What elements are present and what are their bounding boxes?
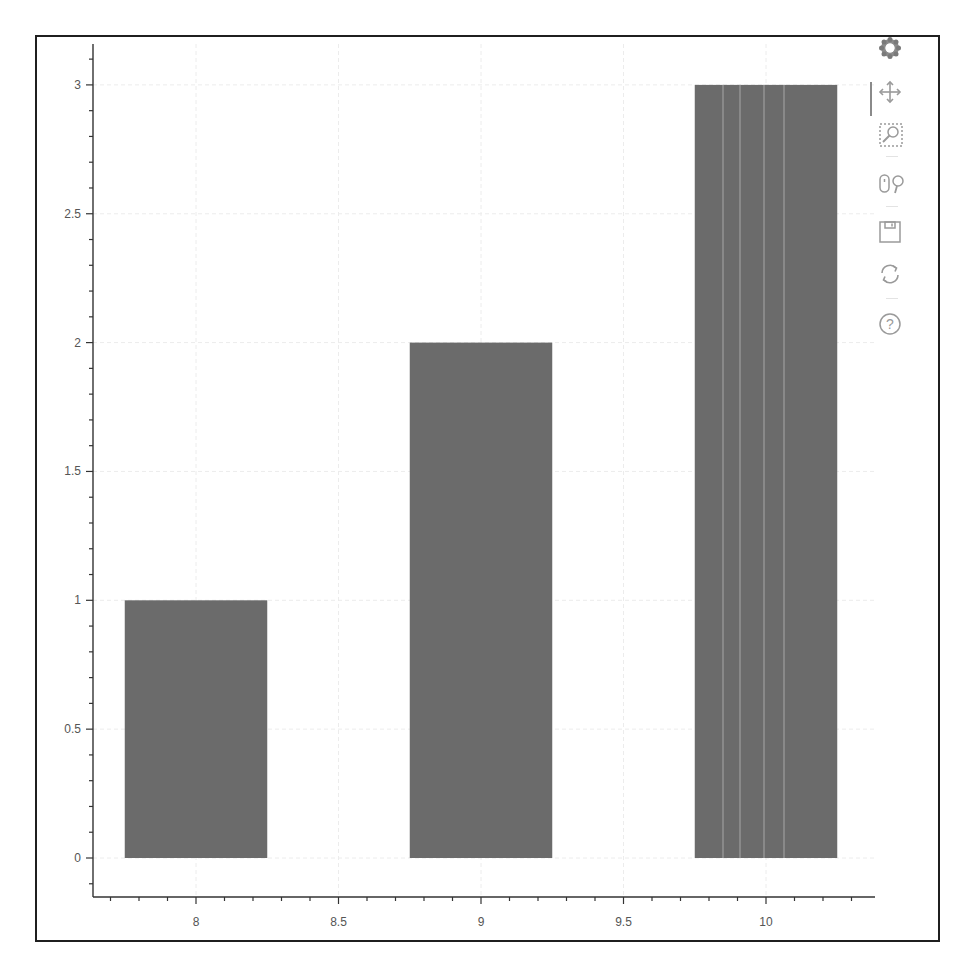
x-tick-label: 8 (193, 915, 200, 929)
y-tick-label: 3 (74, 78, 81, 92)
toolbar-separator (886, 206, 898, 207)
toolbar-separator (886, 156, 898, 157)
save-icon[interactable] (878, 220, 906, 248)
box-zoom-icon[interactable] (878, 122, 906, 150)
bar (695, 85, 838, 858)
bar (410, 343, 553, 858)
pan-move-icon[interactable] (878, 80, 906, 108)
y-tick-label: 0 (74, 851, 81, 865)
x-tick-label: 9.5 (615, 915, 632, 929)
help-icon[interactable]: ? (878, 312, 906, 340)
x-tick-label: 10 (759, 915, 773, 929)
y-tick-label: 1.5 (64, 464, 81, 478)
active-tool-indicator (870, 82, 872, 116)
bar-chart[interactable]: 00.511.522.5388.599.510 (0, 0, 955, 978)
wheel-zoom-icon[interactable] (878, 172, 906, 200)
x-tick-label: 9 (478, 915, 485, 929)
x-tick-label: 8.5 (330, 915, 347, 929)
reset-icon[interactable] (878, 262, 906, 290)
y-tick-label: 2 (74, 336, 81, 350)
svg-text:?: ? (886, 316, 894, 332)
y-tick-label: 2.5 (64, 207, 81, 221)
y-tick-label: 0.5 (64, 722, 81, 736)
y-tick-label: 1 (74, 593, 81, 607)
toolbar-separator (886, 298, 898, 299)
bokeh-logo-icon[interactable] (878, 36, 906, 64)
bar (125, 600, 268, 858)
